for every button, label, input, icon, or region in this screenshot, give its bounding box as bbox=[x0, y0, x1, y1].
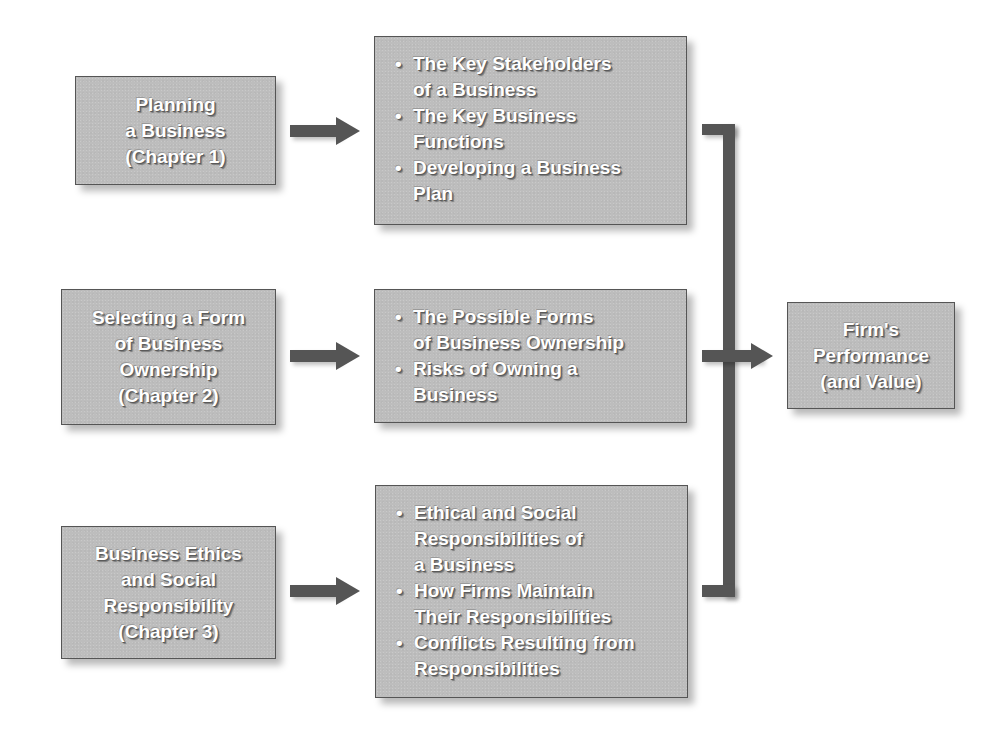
outcome-line-2: Performance bbox=[813, 343, 929, 369]
outcome-line-3: (and Value) bbox=[820, 369, 921, 395]
chapter-2-line-3: Ownership bbox=[119, 357, 217, 383]
topic-item: Ethical and Social Responsibilities of a… bbox=[392, 500, 677, 578]
chapter-1-line-1: Planning bbox=[135, 92, 215, 118]
arrow-head-icon bbox=[336, 117, 362, 145]
topic-item-line: Risks of Owning a bbox=[413, 356, 676, 382]
topic-item: How Firms Maintain Their Responsibilitie… bbox=[392, 578, 677, 630]
topic-item-line: Responsibilities bbox=[414, 656, 677, 682]
topic-item-line: a Business bbox=[414, 552, 677, 578]
chapter-2-line-1: Selecting a Form bbox=[92, 305, 245, 331]
topic-item-line: Conflicts Resulting from bbox=[414, 630, 677, 656]
arrow-chapter-2-to-topics-2 bbox=[290, 342, 362, 370]
outcome-line-1: Firm's bbox=[843, 317, 899, 343]
arrow-head-icon bbox=[751, 343, 775, 369]
outcome-box: Firm's Performance (and Value) bbox=[787, 302, 955, 409]
chapter-3-line-2: and Social bbox=[121, 567, 216, 593]
chapter-2-box: Selecting a Form of Business Ownership (… bbox=[61, 289, 276, 425]
topic-item-line: The Key Business bbox=[413, 103, 676, 129]
topic-item: The Possible Forms of Business Ownership bbox=[391, 304, 676, 356]
chapter-1-line-2: a Business bbox=[125, 118, 225, 144]
topics-2-list: The Possible Forms of Business Ownership… bbox=[391, 304, 676, 408]
topic-item-line: Responsibilities of bbox=[414, 526, 677, 552]
topic-item-line: The Key Stakeholders bbox=[413, 51, 676, 77]
topic-item: The Key Business Functions bbox=[391, 103, 676, 155]
arrow-chapter-3-to-topics-3 bbox=[290, 577, 362, 605]
topic-item-line: Functions bbox=[413, 129, 676, 155]
chapter-3-line-4: (Chapter 3) bbox=[118, 619, 218, 645]
topic-item-line: Developing a Business bbox=[413, 155, 676, 181]
arrow-chapter-1-to-topics-1 bbox=[290, 117, 362, 145]
topic-item-line: of Business Ownership bbox=[413, 330, 676, 356]
arrow-head-icon bbox=[336, 577, 362, 605]
topic-item-line: How Firms Maintain bbox=[414, 578, 677, 604]
chapter-1-box: Planning a Business (Chapter 1) bbox=[75, 76, 276, 185]
chapter-3-line-1: Business Ethics bbox=[95, 541, 242, 567]
topic-item: Developing a Business Plan bbox=[391, 155, 676, 207]
topic-item: Conflicts Resulting from Responsibilitie… bbox=[392, 630, 677, 682]
topic-item-line: Plan bbox=[413, 181, 676, 207]
arrow-shaft bbox=[290, 125, 340, 137]
topics-3-box: Ethical and Social Responsibilities of a… bbox=[375, 485, 688, 698]
chapter-1-line-3: (Chapter 1) bbox=[125, 144, 225, 170]
topic-item-line: The Possible Forms bbox=[413, 304, 676, 330]
topic-item-line: Business bbox=[413, 382, 676, 408]
bracket-bottom-bar bbox=[702, 585, 735, 597]
topic-item: Risks of Owning a Business bbox=[391, 356, 676, 408]
topics-1-box: The Key Stakeholders of a Business The K… bbox=[374, 36, 687, 225]
chapter-2-line-2: of Business bbox=[115, 331, 223, 357]
topics-3-list: Ethical and Social Responsibilities of a… bbox=[392, 500, 677, 682]
topic-item-line: Their Responsibilities bbox=[414, 604, 677, 630]
arrow-shaft bbox=[290, 350, 340, 362]
topic-item: The Key Stakeholders of a Business bbox=[391, 51, 676, 103]
topic-item-line: of a Business bbox=[413, 77, 676, 103]
topic-item-line: Ethical and Social bbox=[414, 500, 677, 526]
chapter-2-line-4: (Chapter 2) bbox=[118, 383, 218, 409]
arrow-shaft bbox=[290, 585, 340, 597]
chapter-3-box: Business Ethics and Social Responsibilit… bbox=[61, 526, 276, 659]
arrow-head-icon bbox=[336, 342, 362, 370]
topics-2-box: The Possible Forms of Business Ownership… bbox=[374, 289, 687, 423]
chapter-3-line-3: Responsibility bbox=[104, 593, 234, 619]
topics-1-list: The Key Stakeholders of a Business The K… bbox=[391, 51, 676, 207]
